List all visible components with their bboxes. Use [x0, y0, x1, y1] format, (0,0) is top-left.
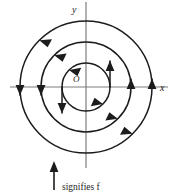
origin-label: O — [73, 74, 80, 84]
middle-circle-arrowhead-lower-right — [105, 112, 117, 120]
vector-field-figure: y x O signifies f — [0, 0, 178, 196]
axes-group — [10, 2, 168, 168]
legend-arrow-icon — [50, 161, 59, 190]
outer-circle-arrowhead-lower-right — [120, 127, 133, 135]
legend-arrow-head — [50, 161, 59, 172]
vector-field-canvas: y x O signifies f — [0, 0, 178, 196]
middle-circle-arrowhead-upper-left — [54, 54, 66, 62]
y-axis-label: y — [71, 4, 77, 15]
x-axis-label: x — [159, 82, 165, 93]
legend-caption: signifies f — [62, 182, 101, 192]
outer-circle-arrowhead-upper-left — [39, 39, 52, 47]
